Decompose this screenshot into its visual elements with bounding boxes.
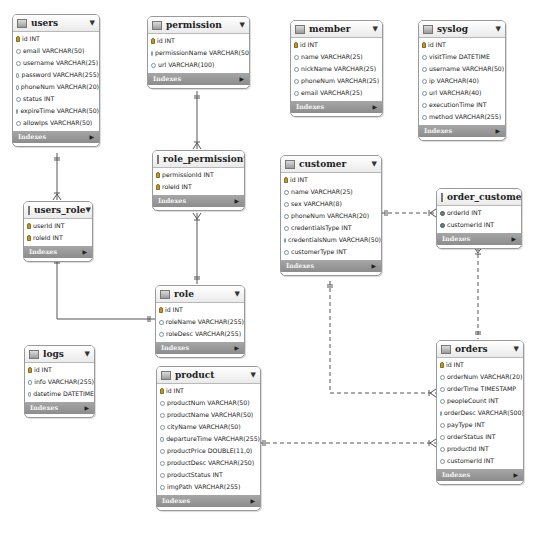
expand-arrow-icon[interactable]: ▶ [371, 260, 376, 272]
column-row[interactable]: orderTime TIMESTAMP [437, 383, 523, 395]
column-row[interactable]: phoneNum VARCHAR(20) [13, 81, 99, 93]
expand-arrow-icon[interactable]: ▶ [239, 73, 244, 85]
column-row[interactable]: executionTime INT [419, 99, 505, 111]
column-row[interactable]: orderStatus INT [437, 431, 523, 443]
column-row[interactable]: productId INT [437, 443, 523, 455]
column-row[interactable]: permissionName VARCHAR(50) [148, 47, 249, 59]
indexes-section[interactable]: Indexes▶ [291, 101, 382, 113]
table-syslog[interactable]: syslog▼id INTvisitTime DATETIMEusername … [418, 20, 506, 141]
table-menu-dropdown-icon[interactable]: ▼ [373, 25, 378, 33]
column-row[interactable]: id INT [25, 364, 94, 376]
table-role-permission[interactable]: role_permission▼permissionId INTroleId I… [152, 150, 245, 211]
column-row[interactable]: payType INT [437, 419, 523, 431]
table-menu-dropdown-icon[interactable]: ▼ [243, 155, 245, 163]
column-row[interactable]: credentialsType INT [281, 222, 381, 234]
column-row[interactable]: datetime DATETIME [25, 388, 94, 400]
expand-arrow-icon[interactable]: ▶ [513, 469, 518, 481]
column-row[interactable]: imgPath VARCHAR(255) [157, 481, 260, 493]
column-row[interactable]: url VARCHAR(100) [148, 59, 249, 71]
column-row[interactable]: customerId INT [437, 219, 521, 231]
expand-arrow-icon[interactable]: ▶ [372, 101, 377, 113]
table-menu-dropdown-icon[interactable]: ▼ [240, 21, 245, 29]
column-row[interactable]: name VARCHAR(25) [281, 186, 381, 198]
column-row[interactable]: productDesc VARCHAR(250) [157, 457, 260, 469]
table-header[interactable]: order_customer▼ [437, 189, 521, 206]
column-row[interactable]: productNum VARCHAR(50) [157, 397, 260, 409]
column-row[interactable]: email VARCHAR(25) [291, 87, 382, 99]
column-row[interactable]: productName VARCHAR(50) [157, 409, 260, 421]
expand-arrow-icon[interactable]: ▶ [495, 125, 500, 137]
table-orders[interactable]: orders▼id INTorderNum VARCHAR(20)orderTi… [436, 340, 524, 485]
column-row[interactable]: allowIps VARCHAR(50) [13, 117, 99, 129]
column-row[interactable]: password VARCHAR(255) [13, 69, 99, 81]
column-row[interactable]: productPrice DOUBLE(11,0) [157, 445, 260, 457]
table-menu-dropdown-icon[interactable]: ▼ [90, 19, 95, 27]
table-header[interactable]: users▼ [13, 15, 99, 32]
indexes-section[interactable]: Indexes▶ [153, 195, 244, 207]
column-row[interactable]: id INT [156, 304, 244, 316]
column-row[interactable]: permissionId INT [153, 169, 244, 181]
column-row[interactable]: username VARCHAR(25) [13, 57, 99, 69]
table-member[interactable]: member▼id INTname VARCHAR(25)nickName VA… [290, 20, 383, 117]
column-row[interactable]: id INT [13, 33, 99, 45]
column-row[interactable]: id INT [157, 385, 260, 397]
table-menu-dropdown-icon[interactable]: ▼ [496, 25, 501, 33]
column-row[interactable]: id INT [148, 35, 249, 47]
column-row[interactable]: info VARCHAR(255) [25, 376, 94, 388]
indexes-section[interactable]: Indexes▶ [148, 73, 249, 85]
table-header[interactable]: users_role▼ [24, 202, 92, 219]
column-row[interactable]: userId INT [24, 220, 92, 232]
column-row[interactable]: nickName VARCHAR(25) [291, 63, 382, 75]
column-row[interactable]: departureTime VARCHAR(255) [157, 433, 260, 445]
column-row[interactable]: roleId INT [153, 181, 244, 193]
table-role[interactable]: role▼id INTroleName VARCHAR(255)roleDesc… [155, 285, 245, 358]
indexes-section[interactable]: Indexes▶ [437, 233, 521, 245]
column-row[interactable]: roleId INT [24, 232, 92, 244]
table-header[interactable]: permission▼ [148, 17, 249, 34]
column-row[interactable]: username VARCHAR(50) [419, 63, 505, 75]
column-row[interactable]: id INT [437, 359, 523, 371]
table-menu-dropdown-icon[interactable]: ▼ [372, 160, 377, 168]
column-row[interactable]: roleDesc VARCHAR(255) [156, 328, 244, 340]
table-customer[interactable]: customer▼id INTname VARCHAR(25)sex VARCH… [280, 155, 382, 276]
expand-arrow-icon[interactable]: ▶ [89, 131, 94, 143]
expand-arrow-icon[interactable]: ▶ [250, 495, 255, 507]
table-header[interactable]: customer▼ [281, 156, 381, 173]
column-row[interactable]: id INT [281, 174, 381, 186]
table-header[interactable]: syslog▼ [419, 21, 505, 38]
column-row[interactable]: visitTime DATETIME [419, 51, 505, 63]
expand-arrow-icon[interactable]: ▶ [511, 233, 516, 245]
column-row[interactable]: orderId INT [437, 207, 521, 219]
table-order-customer[interactable]: order_customer▼orderId INTcustomerId INT… [436, 188, 522, 249]
column-row[interactable]: sex VARCHAR(8) [281, 198, 381, 210]
table-header[interactable]: orders▼ [437, 341, 523, 358]
indexes-section[interactable]: Indexes▶ [281, 260, 381, 272]
table-users[interactable]: users▼id INTemail VARCHAR(50)username VA… [12, 14, 100, 147]
table-menu-dropdown-icon[interactable]: ▼ [85, 350, 90, 358]
table-menu-dropdown-icon[interactable]: ▼ [235, 290, 240, 298]
indexes-section[interactable]: Indexes▶ [419, 125, 505, 137]
expand-arrow-icon[interactable]: ▶ [84, 402, 89, 414]
column-row[interactable]: ip VARCHAR(40) [419, 75, 505, 87]
column-row[interactable]: orderDesc VARCHAR(500) [437, 407, 523, 419]
table-header[interactable]: member▼ [291, 21, 382, 38]
table-logs[interactable]: logs▼id INTinfo VARCHAR(255)datetime DAT… [24, 345, 95, 418]
table-header[interactable]: product▼ [157, 367, 260, 384]
indexes-section[interactable]: Indexes▶ [25, 402, 94, 414]
table-header[interactable]: role_permission▼ [153, 151, 244, 168]
column-row[interactable]: productStatus INT [157, 469, 260, 481]
expand-arrow-icon[interactable]: ▶ [234, 195, 239, 207]
table-permission[interactable]: permission▼id INTpermissionName VARCHAR(… [147, 16, 250, 89]
column-row[interactable]: cityName VARCHAR(50) [157, 421, 260, 433]
column-row[interactable]: orderNum VARCHAR(20) [437, 371, 523, 383]
indexes-section[interactable]: Indexes▶ [13, 131, 99, 143]
table-menu-dropdown-icon[interactable]: ▼ [514, 345, 519, 353]
column-row[interactable]: phoneNum VARCHAR(25) [291, 75, 382, 87]
column-row[interactable]: roleName VARCHAR(255) [156, 316, 244, 328]
expand-arrow-icon[interactable]: ▶ [82, 246, 87, 258]
expand-arrow-icon[interactable]: ▶ [234, 342, 239, 354]
column-row[interactable]: status INT [13, 93, 99, 105]
column-row[interactable]: credentialsNum VARCHAR(50) [281, 234, 381, 246]
column-row[interactable]: peopleCount INT [437, 395, 523, 407]
indexes-section[interactable]: Indexes▶ [437, 469, 523, 481]
